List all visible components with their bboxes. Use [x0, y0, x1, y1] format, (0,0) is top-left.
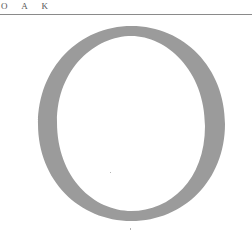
print-speck [130, 228, 131, 230]
large-letter-o-icon [0, 0, 252, 231]
print-speck [110, 172, 111, 173]
